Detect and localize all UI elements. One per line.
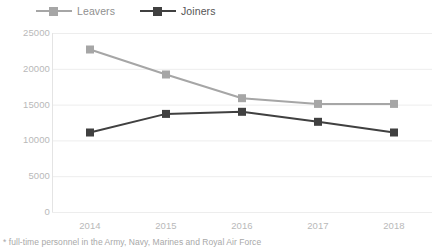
chart-footnote: * full-time personnel in the Army, Navy,… <box>3 237 261 247</box>
x-tick-label-2017: 2017 <box>288 220 348 231</box>
x-axis: 20142015201620172018 <box>0 0 442 250</box>
x-tick-label-2016: 2016 <box>212 220 272 231</box>
chart-container: Leavers Joiners 050001000015000200002500… <box>0 0 442 250</box>
x-tick-label-2015: 2015 <box>136 220 196 231</box>
x-tick-label-2014: 2014 <box>60 220 120 231</box>
x-tick-label-2018: 2018 <box>364 220 424 231</box>
